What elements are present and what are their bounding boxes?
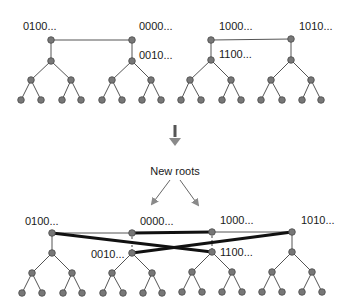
- tree-nodes: [18, 37, 165, 104]
- down-arrow-icon: [169, 125, 181, 146]
- tree-nodes: [178, 36, 325, 104]
- top-label-1000: 1000...: [219, 20, 253, 32]
- top-label-0010: 0010...: [139, 49, 173, 61]
- bottom-label-0010: 0010...: [91, 248, 125, 260]
- network-tree-diagram: 0100... 0000... 0010... 1000... 1100... …: [0, 0, 350, 307]
- new-roots-arrows: [152, 180, 198, 205]
- top-left-pair: [18, 37, 165, 104]
- top-diagram: 0100... 0000... 0010... 1000... 1100... …: [18, 20, 333, 103]
- top-label-0000: 0000...: [139, 20, 173, 32]
- top-label-0100: 0100...: [23, 20, 57, 32]
- top-right-pair: [178, 36, 325, 104]
- new-root-link: [132, 232, 212, 233]
- bottom-label-1100: 1100...: [220, 246, 253, 258]
- new-roots-caption: New roots: [150, 165, 200, 177]
- bottom-diagram: 0100... 0000... 0010... 1000... 1100... …: [19, 214, 335, 296]
- bottom-label-0000: 0000...: [140, 215, 174, 227]
- top-label-1100: 1100...: [219, 48, 252, 60]
- bottom-label-1000: 1000...: [220, 214, 254, 226]
- bottom-label-1010: 1010...: [301, 214, 335, 226]
- bottom-label-0100: 0100...: [25, 215, 59, 227]
- top-label-1010: 1010...: [299, 20, 333, 32]
